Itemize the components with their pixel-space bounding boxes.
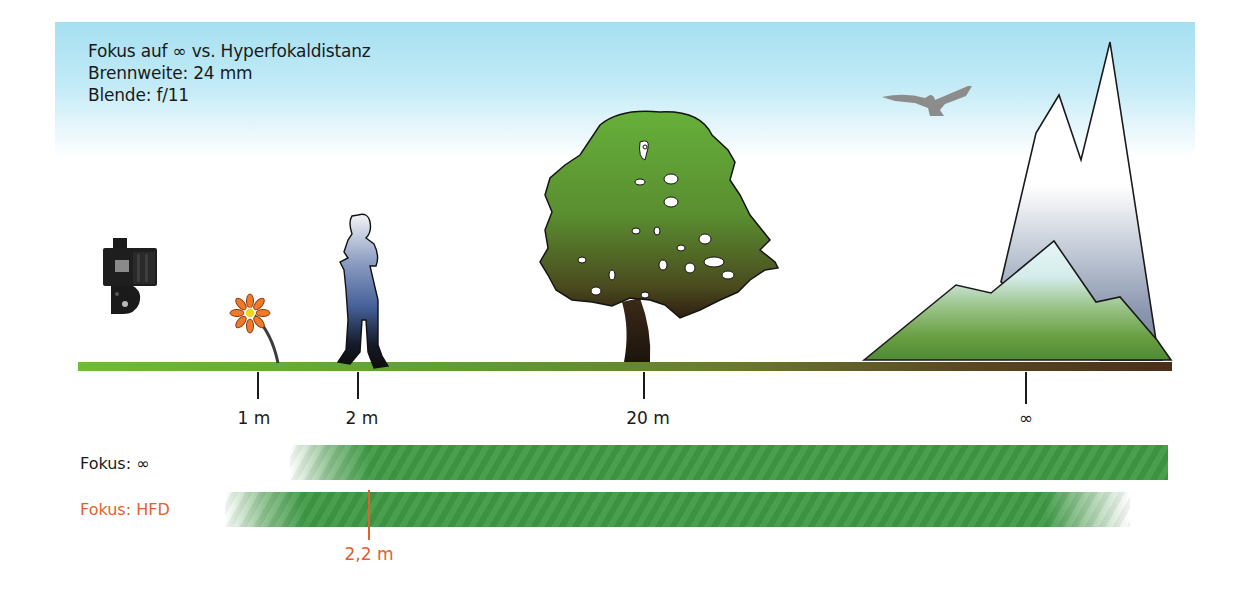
tick-label-20m: 20 m — [626, 408, 670, 428]
label-focus-hfd: Fokus: HFD — [80, 500, 170, 519]
label-focus-infinity: Fokus: ∞ — [80, 454, 149, 473]
person-icon — [338, 214, 388, 368]
tree-icon — [540, 111, 778, 362]
flower-icon — [230, 294, 278, 363]
tick-label-1m: 1 m — [238, 408, 271, 428]
distance-ticks — [258, 372, 1026, 404]
hfd-marker-line — [368, 490, 370, 540]
bird-icon — [882, 86, 972, 116]
depth-of-field-bar-hfd — [225, 492, 1130, 527]
ground-line — [78, 362, 1172, 371]
tick-label-2m: 2 m — [346, 408, 379, 428]
camera-icon — [103, 238, 157, 314]
depth-of-field-bar-infinity — [290, 445, 1168, 480]
mountain-icon — [864, 42, 1171, 360]
tick-label-infinity: ∞ — [1019, 408, 1033, 428]
hfd-marker-label: 2,2 m — [345, 544, 394, 564]
